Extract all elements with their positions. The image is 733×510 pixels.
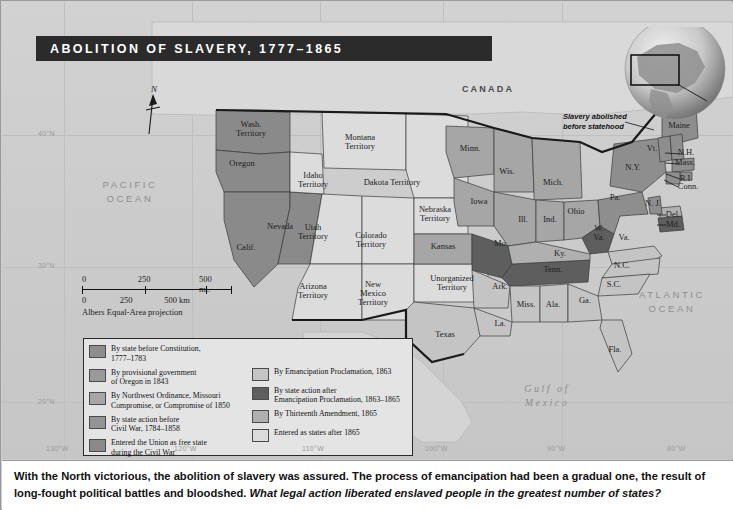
scale-miles: 0 250 500 mi.	[82, 274, 232, 285]
place-label-line: Territory	[298, 180, 328, 189]
legend-label-line: By provisional government	[111, 368, 196, 378]
place-label-utah-territory: UtahTerritory	[298, 223, 328, 241]
legend-label-line: Emancipation Proclamation, 1863–1865	[274, 395, 400, 405]
legend-swatch	[252, 429, 269, 442]
legend-label-line: By Northwest Ordinance, Missouri	[111, 391, 230, 401]
place-label-line: Territory	[355, 240, 387, 249]
place-label-ark: Ark.	[492, 282, 507, 291]
place-label-wash-territory: Wash.Territory	[236, 120, 266, 138]
place-label-s-c: S.C.	[607, 280, 622, 289]
state-kentucky	[508, 242, 590, 264]
place-label-line: Va.	[618, 233, 629, 242]
legend-item: By Emancipation Proclamation, 1863	[252, 367, 412, 381]
place-label-minn: Minn.	[460, 144, 481, 153]
place-label-mo: Mo.	[494, 239, 508, 248]
place-label-line: Conn.	[678, 182, 699, 191]
legend-label: By state action beforeCivil War, 1784–18…	[111, 415, 180, 434]
place-label-line: Ill.	[518, 215, 528, 224]
legend-item: Entered the Union as free stateduring th…	[89, 438, 254, 457]
legend-label: Entered as states after 1865	[274, 428, 360, 438]
place-label-mich: Mich.	[543, 178, 563, 187]
place-label-ky: Ky.	[554, 249, 566, 258]
place-label-montana-territory: MontanaTerritory	[345, 133, 375, 151]
place-label-line: Mass.	[675, 158, 695, 167]
state-louisiana	[474, 308, 512, 336]
place-label-line: Maine	[668, 121, 690, 130]
legend-column-left: By state before Constitution,1777–1783By…	[89, 344, 254, 459]
place-label-arizona-territory: ArizonaTerritory	[298, 282, 328, 300]
place-label-line: Wis.	[499, 167, 514, 176]
lon-label-130w: 130°W	[46, 445, 69, 452]
place-label-line: Del.	[666, 210, 680, 219]
place-label-line: Mo.	[494, 239, 508, 248]
state-oregon	[216, 150, 290, 192]
place-label-line: Fla.	[609, 345, 622, 354]
legend-column-right: By Emancipation Proclamation, 1863By sta…	[252, 367, 412, 446]
place-label-calif: Calif.	[236, 243, 255, 252]
place-label-oregon: Oregon	[229, 159, 255, 168]
place-label-line: Ky.	[554, 249, 566, 258]
place-label-line: Territory	[419, 214, 451, 223]
place-label-line: Ohio	[568, 207, 585, 216]
state-michigan	[532, 138, 582, 200]
place-label-line: Kansas	[431, 242, 456, 251]
map-title: ABOLITION OF SLAVERY, 1777–1865	[36, 42, 343, 56]
place-label-ala: Ala.	[546, 300, 560, 309]
place-label-line: Territory	[358, 299, 388, 308]
legend-item: By state before Constitution,1777–1783	[89, 344, 254, 363]
map-title-banner: ABOLITION OF SLAVERY, 1777–1865	[36, 36, 492, 61]
place-label-vt: Vt.	[647, 144, 658, 153]
place-label-line: N. J.	[645, 199, 661, 208]
place-label-line: N.C.	[614, 261, 630, 270]
place-label-n-y: N.Y.	[625, 163, 640, 172]
place-label-nevada: Nevada	[267, 222, 293, 231]
place-label-line: Ala.	[546, 300, 560, 309]
place-label-la: La.	[494, 319, 505, 328]
place-label-line: Ark.	[492, 282, 507, 291]
ocean-label-pacific: PACIFICOCEAN	[103, 178, 158, 206]
place-label-ohio: Ohio	[568, 207, 585, 216]
place-label-ind: Ind.	[543, 215, 556, 224]
legend-label: By state action afterEmancipation Procla…	[274, 386, 400, 405]
legend-swatch	[89, 416, 106, 429]
legend-swatch	[89, 345, 106, 358]
place-label-line: Territory	[430, 283, 474, 292]
place-label-md: Md.	[666, 220, 680, 229]
place-label-line: Territory	[345, 142, 375, 151]
place-label-miss: Miss.	[517, 300, 536, 309]
map-legend: By state before Constitution,1777–1783By…	[83, 338, 413, 456]
place-label-ill: Ill.	[518, 215, 528, 224]
place-label-line: Vt.	[647, 144, 658, 153]
lon-label-120w: 120°W	[174, 445, 197, 452]
legend-swatch	[89, 392, 106, 405]
place-label-colorado-territory: ColoradoTerritory	[355, 231, 387, 249]
legend-label-line: Entered as states after 1865	[274, 428, 360, 438]
place-label-n-c: N.C.	[614, 261, 630, 270]
ocean-label-atlantic: ATLANTICOCEAN	[639, 288, 705, 316]
legend-item: By state action afterEmancipation Procla…	[252, 386, 412, 405]
gulf-label: Gulf ofMexico	[524, 382, 570, 409]
place-label-line: La.	[494, 319, 505, 328]
place-label-conn: Conn.	[678, 182, 699, 191]
legend-label-line: By Emancipation Proclamation, 1863	[274, 367, 391, 377]
state-pennsylvania	[598, 192, 648, 234]
place-label-line: Texas	[435, 330, 455, 339]
place-label-unorganized-territory: UnorganizedTerritory	[430, 274, 474, 292]
legend-item: Entered as states after 1865	[252, 428, 412, 442]
place-label-dakota-territory: Dakota Territory	[364, 178, 421, 187]
place-label-line: Nevada	[267, 222, 293, 231]
map-plate: 40°N 30°N 20°N	[2, 2, 733, 459]
place-label-mass: Mass.	[675, 158, 695, 167]
scale-bar-graphic	[82, 286, 232, 294]
place-label-line: Calif.	[236, 243, 255, 252]
place-label-nebraska-territory: NebraskaTerritory	[419, 205, 451, 223]
north-arrow-icon: N	[142, 86, 164, 136]
place-label-line: N.Y.	[625, 163, 640, 172]
place-label-line: Iowa	[471, 197, 488, 206]
place-label-line: Minn.	[460, 144, 481, 153]
legend-swatch	[252, 368, 269, 381]
legend-label-line: By state action after	[274, 386, 400, 396]
legend-swatch	[252, 410, 269, 423]
legend-label-line: of Oregon in 1843	[111, 377, 196, 387]
place-label-line: Mich.	[543, 178, 563, 187]
